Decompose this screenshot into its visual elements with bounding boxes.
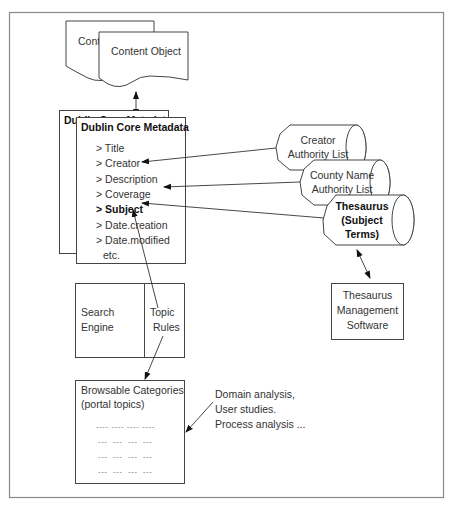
- thesaurus-subject-terms: Thesaurus (Subject Terms): [323, 195, 414, 245]
- analysis-note-1: Domain analysis,: [215, 388, 295, 400]
- metadata-card: Dublin Core Metadata > Title> Creator> D…: [77, 118, 190, 264]
- thesaurus-label-3: Terms): [345, 228, 379, 240]
- search-topic-box: Search Engine Topic Rules: [76, 284, 185, 358]
- placeholder-row: ---- ---- ---- ----: [96, 422, 155, 431]
- content-object-front: Content Object: [99, 32, 188, 87]
- creator-label-1: Creator: [300, 134, 336, 146]
- software-label-3: Software: [347, 319, 389, 331]
- placeholder-row: --- --- --- ---: [98, 467, 152, 476]
- metadata-field: > Title: [96, 142, 124, 154]
- analysis-note: Domain analysis, User studies. Process a…: [215, 388, 305, 430]
- county-label-2: Authority List: [312, 183, 373, 195]
- analysis-note-2: User studies.: [215, 403, 276, 415]
- search-engine-label-2: Engine: [81, 321, 114, 333]
- metadata-field: > Date.modified: [96, 234, 170, 246]
- thesaurus-label-1: Thesaurus: [335, 200, 388, 212]
- thesaurus-label-2: (Subject: [341, 214, 383, 226]
- search-engine-label-1: Search: [81, 306, 114, 318]
- placeholder-row: --- --- --- ---: [98, 437, 152, 446]
- metadata-field: > Date.creation: [96, 219, 168, 231]
- software-label-2: Management: [337, 304, 398, 316]
- content-object-front-label: Content Object: [111, 45, 181, 57]
- browsable-title-2: (portal topics): [81, 398, 145, 410]
- creator-label-2: Authority List: [288, 148, 349, 160]
- analysis-arrow: [186, 402, 213, 432]
- software-label-1: Thesaurus: [343, 289, 393, 301]
- browsable-categories: Browsable Categories (portal topics) ---…: [76, 381, 185, 484]
- placeholder-row: --- --- --- ---: [98, 452, 152, 461]
- topic-rules-label-2: Rules: [153, 321, 180, 333]
- metadata-field: > Subject: [96, 203, 143, 215]
- metadata-field: > Creator: [96, 157, 141, 169]
- metadata-title: Dublin Core Metadata: [81, 121, 189, 133]
- county-label-1: County Name: [310, 169, 374, 181]
- metadata-field: > Coverage: [96, 188, 151, 200]
- browsable-title-1: Browsable Categories: [81, 384, 184, 396]
- thesaurus-management-software: Thesaurus Management Software: [332, 284, 404, 340]
- metadata-field: etc.: [103, 249, 120, 261]
- diagram-canvas: Content Object Content Object Dublin Cor…: [0, 0, 451, 506]
- analysis-note-3: Process analysis ...: [215, 418, 305, 430]
- topic-rules-label-1: Topic: [150, 306, 175, 318]
- thesaurus-software-arrow: [357, 250, 370, 278]
- metadata-field: > Description: [96, 173, 158, 185]
